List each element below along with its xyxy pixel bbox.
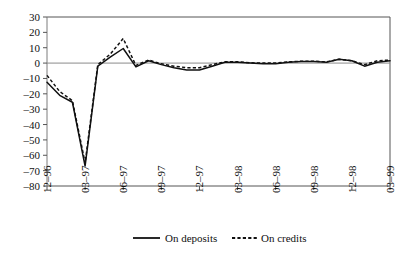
- x-axis-tick-label: 03–97: [79, 165, 91, 193]
- x-axis-tick-label: 12–97: [193, 165, 205, 193]
- x-axis-tick-label: 09–98: [308, 165, 320, 193]
- x-axis: 12–9603–9706–9709–9712–9703–9806–9809–98…: [41, 165, 396, 193]
- x-axis-tick-label: 12–96: [41, 165, 53, 193]
- y-axis-tick-label: –80: [23, 180, 41, 192]
- line-chart: 3020100–10–20–30–40–50–60–70–80 12–9603–…: [0, 0, 410, 257]
- y-axis-tick-label: 0: [35, 57, 41, 69]
- x-axis-tick-label: 03–98: [232, 165, 244, 193]
- y-axis-tick-label: –20: [23, 88, 41, 100]
- y-axis-tick-label: –40: [23, 119, 41, 131]
- legend-label-on-deposits: On deposits: [165, 232, 217, 244]
- y-axis-tick-label: –10: [23, 72, 41, 84]
- y-axis-tick-label: –50: [23, 134, 41, 146]
- x-axis-tick-label: 06–98: [270, 165, 282, 193]
- series-line-on-deposits: [47, 49, 390, 167]
- x-axis-tick-label: 06–97: [117, 165, 129, 193]
- y-axis-tick-label: –30: [23, 103, 41, 115]
- y-axis-tick-label: 30: [29, 11, 41, 23]
- series-line-on-credits: [47, 39, 390, 163]
- x-axis-tick-label: 03–99: [384, 165, 396, 193]
- y-axis-tick-label: –60: [23, 149, 41, 161]
- y-axis-tick-label: 20: [29, 26, 41, 38]
- chart-legend: On deposits On credits: [133, 232, 307, 244]
- y-axis-tick-label: –70: [23, 165, 41, 177]
- x-axis-tick-label: 09–97: [155, 165, 167, 193]
- x-axis-tick-label: 12–98: [346, 165, 358, 193]
- plot-frame: [47, 17, 390, 186]
- y-axis: 3020100–10–20–30–40–50–60–70–80: [23, 11, 48, 192]
- legend-label-on-credits: On credits: [261, 232, 307, 244]
- chart-container: 3020100–10–20–30–40–50–60–70–80 12–9603–…: [0, 0, 410, 257]
- data-series-group: [47, 39, 390, 167]
- y-axis-tick-label: 10: [29, 42, 41, 54]
